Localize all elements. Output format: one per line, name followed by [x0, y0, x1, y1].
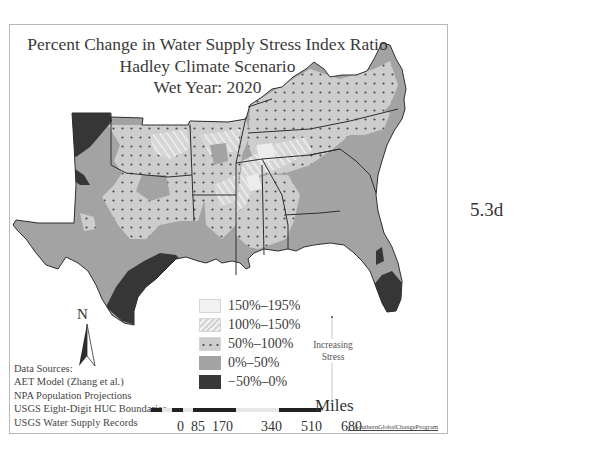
legend-swatch-50-100 — [199, 337, 221, 351]
map-title: Percent Change in Water Supply Stress In… — [10, 34, 405, 99]
legend-item: 150%–195% — [199, 296, 300, 315]
title-line-1: Percent Change in Water Supply Stress In… — [10, 34, 405, 56]
scale-tick: 170 — [212, 419, 233, 435]
data-source-item: AET Model (Zhang et al.) — [14, 375, 167, 388]
legend-swatch-0-50 — [199, 356, 221, 370]
scale-tick: 0 — [177, 419, 184, 435]
legend-swatch-100-150 — [199, 318, 221, 332]
scale-tick: 510 — [301, 419, 322, 435]
scale-unit: Miles — [315, 396, 354, 416]
increasing-stress-label: Increasing Stress — [305, 339, 361, 363]
legend: 150%–195% 100%–150% 50%–100% 0%–50% −50%… — [199, 296, 300, 391]
data-source-item: NPA Population Projections — [14, 389, 167, 402]
scale-bar — [151, 408, 321, 412]
legend-item: 0%–50% — [199, 353, 300, 372]
figure-label: 5.3d — [470, 199, 503, 221]
title-line-2: Hadley Climate Scenario — [10, 56, 405, 78]
data-sources: Data Sources: AET Model (Zhang et al.) N… — [14, 362, 167, 429]
legend-swatch-neg50-0 — [199, 375, 221, 389]
title-line-3: Wet Year: 2020 — [10, 77, 405, 99]
legend-item: 50%–100% — [199, 334, 300, 353]
scale-tick: 85 — [191, 419, 205, 435]
legend-item: 100%–150% — [199, 315, 300, 334]
legend-item: −50%–0% — [199, 372, 300, 391]
data-source-item: USGS Eight-Digit HUC Boundaries — [14, 402, 167, 415]
legend-swatch-150-195 — [199, 299, 221, 313]
copyright-credit: © SouthernGlobalChangeProgram — [348, 423, 438, 430]
data-source-item: USGS Water Supply Records — [14, 416, 167, 429]
data-sources-heading: Data Sources: — [14, 362, 167, 375]
map-frame: Percent Change in Water Supply Stress In… — [9, 24, 448, 434]
scale-tick: 340 — [261, 419, 282, 435]
